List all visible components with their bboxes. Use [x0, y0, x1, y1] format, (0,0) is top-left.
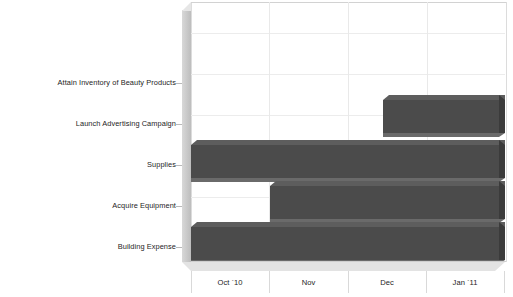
x-axis-label-dec: Dec [348, 271, 426, 293]
axis-divider-4 [504, 271, 505, 293]
bar-launch-advertising-campaign [383, 100, 499, 133]
category-label-supplies: Supplies [147, 160, 176, 169]
bar-bottom-face-launch-advertising [383, 133, 505, 137]
x-axis-label-nov: Nov [269, 271, 348, 293]
category-label-attain-inventory: Attain Inventory of Beauty Products [58, 78, 176, 87]
x-axis: Oct `10 Nov Dec Jan `11 [191, 271, 505, 293]
category-label-building-expense: Building Expense [118, 242, 176, 251]
category-label-launch-advertising: Launch Advertising Campaign [76, 119, 176, 128]
bar-side-face-launch-advertising [499, 95, 505, 133]
bar-side-face-building-expense [499, 222, 505, 260]
bar-building-expense [191, 227, 499, 260]
gantt-bar-chart: Attain Inventory of Beauty Products Laun… [0, 0, 513, 297]
bar-side-face-acquire-equipment [499, 181, 505, 219]
x-axis-label-oct-2010: Oct `10 [191, 271, 269, 293]
bar-supplies [191, 145, 499, 178]
category-label-acquire-equipment: Acquire Equipment [112, 201, 176, 210]
bar-side-face-supplies [499, 140, 505, 178]
x-axis-label-jan-2011: Jan `11 [426, 271, 504, 293]
chart-floor [182, 262, 505, 271]
plot-bottom-edge [191, 261, 506, 262]
chart-left-wall [182, 10, 191, 262]
bar-acquire-equipment [270, 186, 499, 219]
category-axis: Attain Inventory of Beauty Products Laun… [0, 0, 184, 297]
